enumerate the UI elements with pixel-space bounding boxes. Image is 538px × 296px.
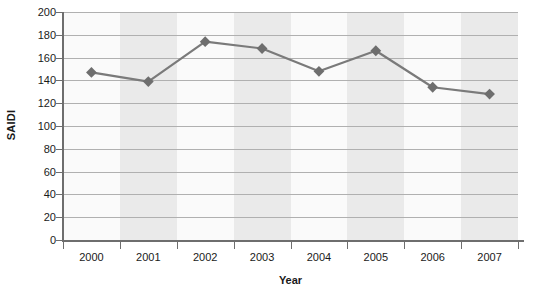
x-axis-tick-mark [404, 241, 405, 249]
x-axis-title: Year [63, 274, 518, 286]
x-axis-tick-label: 2003 [250, 252, 274, 263]
x-axis-tick-mark [518, 241, 519, 249]
y-axis-tick-label: 100 [38, 121, 56, 132]
y-axis-tick-mark [56, 12, 63, 13]
data-point-marker: 2007: 128 [484, 89, 495, 100]
y-axis-tick-mark [56, 126, 63, 127]
y-axis-tick-mark [56, 35, 63, 36]
y-axis-tick-mark [56, 58, 63, 59]
y-axis-tick-mark [56, 217, 63, 218]
data-point-marker: 2000: 147 [86, 67, 97, 78]
x-axis-tick-label: 2005 [364, 252, 388, 263]
x-axis-tick-mark [120, 241, 121, 249]
y-axis-tick-label: 60 [44, 166, 56, 177]
y-axis-tick-label: 120 [38, 98, 56, 109]
y-axis-tick-mark [56, 194, 63, 195]
x-axis-tick-label: 2004 [307, 252, 331, 263]
saidi-line-chart: SAIDI 020406080100120140160180200 2000: … [0, 0, 538, 296]
data-point-marker: 2006: 134 [427, 82, 438, 93]
x-axis-tick-mark [63, 241, 64, 249]
series-svg: 2000: 1472001: 1392002: 1742003: 1682004… [63, 12, 518, 240]
y-axis-tick-label: 40 [44, 189, 56, 200]
x-axis-tick-label: 2006 [420, 252, 444, 263]
y-axis-tick-label-group: 020406080100120140160180200 [24, 12, 56, 240]
plot-area: 2000: 1472001: 1392002: 1742003: 1682004… [63, 12, 518, 240]
y-axis-title: SAIDI [0, 0, 22, 250]
y-axis-tick-mark [56, 240, 63, 241]
data-point-marker: 2003: 168 [257, 43, 268, 54]
x-axis-tick-label: 2001 [136, 252, 160, 263]
x-axis-tick-mark [177, 241, 178, 249]
y-axis-tick-label: 20 [44, 212, 56, 223]
y-axis-title-label: SAIDI [5, 110, 17, 140]
y-axis-tick-mark [56, 149, 63, 150]
y-axis-tick-label: 200 [38, 7, 56, 18]
x-axis-line [62, 240, 524, 242]
y-axis-tick-label: 160 [38, 52, 56, 63]
x-axis-tick-label: 2000 [79, 252, 103, 263]
x-axis-tick-mark [461, 241, 462, 249]
y-axis-tick-mark [56, 103, 63, 104]
x-axis-tick-mark [234, 241, 235, 249]
y-axis-tick-mark [56, 172, 63, 173]
x-axis-tick-label: 2007 [477, 252, 501, 263]
x-axis-tick-mark [291, 241, 292, 249]
y-axis-tick-label: 180 [38, 29, 56, 40]
x-axis-tick-mark [347, 241, 348, 249]
data-point-marker: 2004: 148 [314, 66, 325, 77]
series-layer: 2000: 1472001: 1392002: 1742003: 1682004… [63, 12, 518, 240]
data-point-marker: 2005: 166 [370, 45, 381, 56]
y-axis-tick-label: 140 [38, 75, 56, 86]
y-axis-tick-label: 80 [44, 143, 56, 154]
x-axis-tick-label: 2002 [193, 252, 217, 263]
y-axis-tick-mark [56, 80, 63, 81]
